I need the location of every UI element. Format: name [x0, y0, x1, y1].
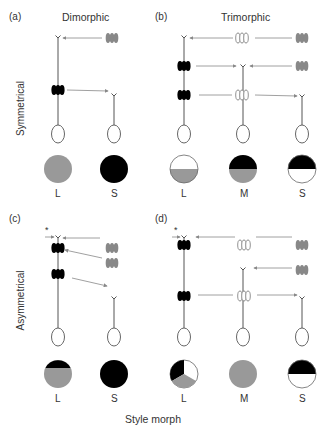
heterostyly-diagram: [0, 0, 329, 439]
pie-d-M: [229, 360, 257, 388]
panel-c: [44, 236, 128, 389]
panel-b: [170, 33, 316, 183]
pie-c-L: [44, 360, 72, 388]
pie-b-M: [229, 155, 257, 183]
panel-d: [170, 236, 316, 389]
pie-b-L: [170, 155, 198, 183]
pie-d-L: [170, 360, 198, 388]
pie-b-S: [288, 155, 316, 183]
pie-c-S: [100, 360, 128, 388]
panel-a: [44, 33, 128, 183]
pie-d-S: [288, 360, 316, 388]
